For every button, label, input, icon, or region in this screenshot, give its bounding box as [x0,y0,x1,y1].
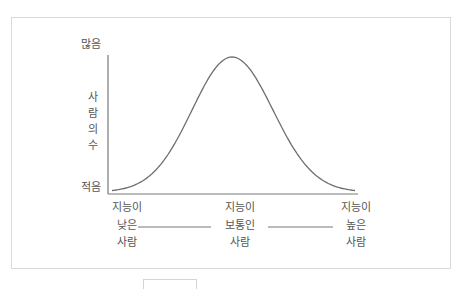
x-label-line: 사람 [331,234,381,252]
normal-distribution-curve [112,57,355,191]
x-label-line: 높은 [331,217,381,235]
x-label-line: 지능이 [331,199,381,217]
y-top-label: 많음 [81,39,101,51]
y-title-char: 수 [86,137,100,154]
y-title-char: 의 [86,121,100,138]
x-label-line: 지능이 [102,199,152,217]
y-bottom-label: 적음 [81,182,101,194]
x-label-high: 지능이 높은 사람 [331,199,381,252]
x-label-line: 지능이 [215,199,265,217]
x-label-line: 낮은 [102,217,152,235]
x-label-average: 지능이 보통인 사람 [215,199,265,252]
x-label-line: 보통인 [215,217,265,235]
x-label-line: 사람 [215,234,265,252]
x-label-line: 사람 [102,234,152,252]
y-title-char: 람 [86,105,100,122]
x-label-low: 지능이 낮은 사람 [102,199,152,252]
y-title-char: 사 [86,89,100,106]
